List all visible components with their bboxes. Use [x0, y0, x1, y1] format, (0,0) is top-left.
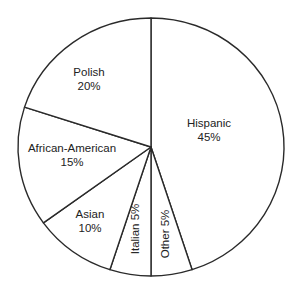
label-other: Other 5%: [159, 210, 171, 259]
pie-chart: Polish 20% Hispanic 45% African-American…: [0, 0, 299, 284]
label-asian-pct: 10%: [78, 222, 101, 234]
label-hispanic-pct: 45%: [197, 131, 220, 143]
label-polish-pct: 20%: [77, 80, 100, 92]
label-african-american-name: African-American: [28, 142, 116, 154]
label-hispanic-name: Hispanic: [187, 117, 231, 129]
label-italian: Italian 5%: [129, 204, 141, 255]
label-polish-name: Polish: [73, 66, 104, 78]
label-african-american-pct: 15%: [60, 156, 83, 168]
label-asian-name: Asian: [76, 208, 105, 220]
